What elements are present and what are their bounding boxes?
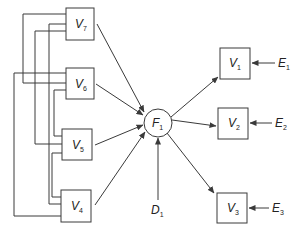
- label-e2: E2: [275, 116, 287, 131]
- arrow-v6-f1: [96, 84, 143, 115]
- arrow-f1-v2: [172, 120, 216, 126]
- arrow-f1-v3: [167, 133, 214, 193]
- cov-v7-v5: [35, 31, 66, 144]
- path-diagram: V7 V6 V5 V4 F1 D1 V1 V2 V3 E1 E: [0, 0, 307, 235]
- node-v6: V6: [66, 68, 94, 99]
- arrow-v5-f1: [95, 125, 143, 145]
- arrow-f1-v1: [171, 77, 218, 117]
- label-e1: E1: [278, 56, 290, 71]
- arrow-v4-f1: [95, 132, 145, 205]
- node-v4: V4: [61, 190, 91, 222]
- label-e3: E3: [272, 201, 284, 216]
- node-v3: V3: [217, 193, 247, 223]
- node-f1: F1: [144, 109, 172, 137]
- node-v2: V2: [218, 108, 248, 139]
- covariance-lines: [14, 14, 66, 216]
- label-d1: D1: [151, 203, 164, 218]
- node-v7: V7: [66, 8, 94, 40]
- node-v5: V5: [62, 129, 92, 160]
- node-v1: V1: [220, 48, 250, 79]
- arrow-v7-f1: [97, 24, 144, 112]
